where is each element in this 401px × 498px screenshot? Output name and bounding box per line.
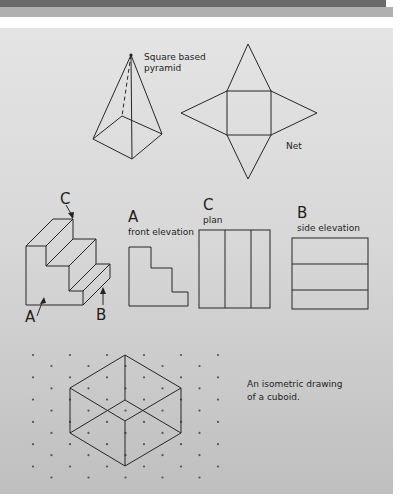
- pyramid-label-line1: Square based: [144, 52, 206, 62]
- isometric-caption-line1: An isometric drawing: [247, 379, 342, 389]
- net-label: Net: [286, 141, 302, 151]
- staircase-figure: [26, 205, 110, 316]
- side-elevation-letter: B: [297, 204, 307, 222]
- front-elevation-caption: front elevation: [128, 227, 194, 237]
- plan-caption: plan: [203, 215, 222, 225]
- staircase-pointer-c: C: [60, 190, 70, 208]
- staircase-pointer-b: B: [96, 306, 106, 324]
- staircase-pointer-a: A: [25, 308, 36, 326]
- side-elevation-shape: [292, 238, 368, 309]
- front-elevation-shape: [129, 247, 188, 306]
- diagram-canvas: Square based pyramid Net C A B: [0, 0, 401, 498]
- pyramid-label-line2: pyramid: [144, 63, 181, 73]
- net-figure: [181, 44, 317, 179]
- side-elevation-caption: side elevation: [297, 223, 360, 233]
- plan-shape: [199, 230, 270, 308]
- isometric-caption-line2: of a cuboid.: [247, 392, 300, 402]
- front-elevation-letter: A: [128, 208, 139, 226]
- plan-letter: C: [203, 196, 213, 214]
